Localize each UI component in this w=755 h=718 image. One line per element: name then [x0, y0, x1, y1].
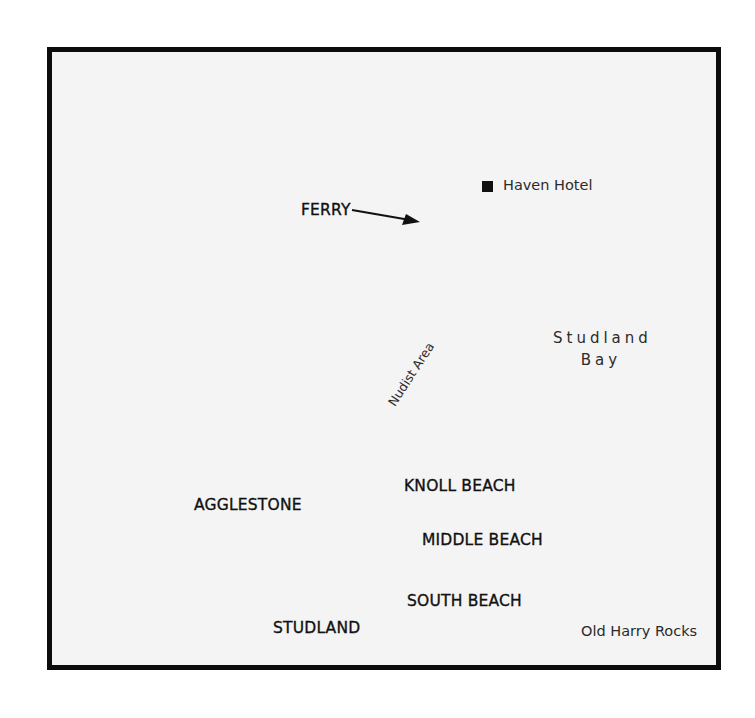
label-studland-bay-line2: Bay — [553, 349, 649, 371]
ferry-arrow-shaft — [352, 210, 410, 220]
label-south-beach: SOUTH BEACH — [407, 594, 522, 610]
label-studland-bay: Studland Bay — [553, 327, 649, 371]
label-agglestone: AGGLESTONE — [194, 498, 302, 514]
label-knoll-beach: KNOLL BEACH — [404, 479, 516, 495]
label-ferry: FERRY — [301, 203, 351, 219]
ferry-arrow-icon — [352, 205, 424, 229]
label-old-harry-rocks: Old Harry Rocks — [581, 624, 697, 639]
label-studland: STUDLAND — [273, 621, 360, 637]
hotel-marker-icon — [482, 181, 493, 192]
label-studland-bay-line1: Studland — [553, 327, 649, 349]
label-haven-hotel: Haven Hotel — [503, 178, 593, 193]
ferry-arrow-head — [402, 214, 420, 225]
label-middle-beach: MIDDLE BEACH — [422, 533, 543, 549]
